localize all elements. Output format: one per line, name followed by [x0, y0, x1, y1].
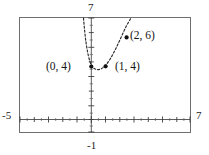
- point-label-0-4: (0, 4): [46, 61, 71, 73]
- axis-label-x-min: -5: [2, 110, 11, 121]
- data-point-0-4: [89, 64, 93, 68]
- axis-label-y-max: 7: [88, 2, 94, 13]
- point-label-2-6: (2, 6): [130, 30, 155, 42]
- axis-label-y-min: -1: [87, 140, 96, 151]
- data-point-1-4: [104, 64, 108, 68]
- axis-label-x-max: 7: [196, 110, 202, 121]
- data-point-2-6: [125, 35, 129, 39]
- graphing-calculator-screenshot: 7 -5 7 -1 (0, 4) (1, 4) (2, 6): [0, 0, 209, 155]
- plot-graphics: [0, 0, 209, 155]
- point-label-1-4: (1, 4): [115, 61, 140, 73]
